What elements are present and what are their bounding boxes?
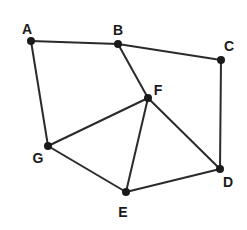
node-label-d: D [223, 174, 233, 190]
node-label-f: F [154, 82, 163, 98]
edge-f-g [48, 98, 148, 146]
node-label-b: B [113, 22, 123, 38]
node-e [122, 188, 130, 196]
edge-f-e [126, 98, 148, 192]
node-d [216, 165, 224, 173]
edge-b-c [118, 44, 221, 60]
edge-f-d [148, 98, 220, 169]
node-label-e: E [118, 204, 127, 220]
edge-e-d [126, 169, 220, 192]
node-g [44, 142, 52, 150]
node-b [114, 40, 122, 48]
node-label-c: C [224, 38, 234, 54]
graph-diagram: ABCFGDE [0, 0, 247, 230]
edge-c-d [220, 60, 221, 169]
node-c [217, 56, 225, 64]
node-label-g: G [33, 150, 44, 166]
node-a [27, 37, 35, 45]
edge-a-g [31, 41, 48, 146]
edge-g-e [48, 146, 126, 192]
node-label-a: A [22, 21, 32, 37]
node-f [144, 94, 152, 102]
nodes-group [27, 37, 225, 196]
edge-a-b [31, 41, 118, 44]
edge-b-f [118, 44, 148, 98]
edges-group [31, 41, 221, 192]
